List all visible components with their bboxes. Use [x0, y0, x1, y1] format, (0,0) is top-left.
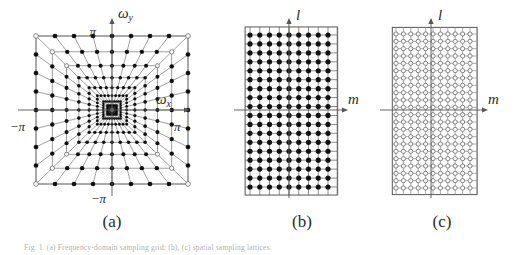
panel-c-point: [424, 105, 428, 109]
panel-a-y-axis-arrow: [109, 18, 114, 24]
panel-c-point: [453, 127, 457, 131]
panel-a-point: [144, 152, 148, 156]
panel-b-point: [316, 184, 321, 189]
panel-c-point: [453, 142, 457, 146]
panel-b-point: [267, 158, 272, 163]
panel-c-point: [461, 54, 465, 58]
panel-c-point: [438, 47, 442, 51]
panel-a-point: [100, 94, 103, 97]
panel-b-point: [306, 59, 311, 64]
panel-c-point: [453, 83, 457, 87]
panel-c-point: [446, 105, 450, 109]
panel-c-point: [401, 171, 405, 175]
panel-c-point: [394, 32, 398, 36]
panel-b-caption: (b): [272, 212, 332, 232]
panel-a-point: [65, 119, 69, 123]
panel-c-point: [461, 61, 465, 65]
panel-a-point: [100, 123, 103, 126]
panel-b-point: [306, 68, 311, 73]
panel-a-point: [87, 64, 91, 68]
panel-b-point: [257, 95, 262, 100]
panel-b-point: [325, 104, 330, 109]
panel-c-point: [468, 142, 472, 146]
panel-a-point: [103, 94, 106, 97]
panel-c-point: [438, 171, 442, 175]
panel-c-border: [392, 27, 477, 194]
panel-c-point: [438, 157, 442, 161]
panel-c-point: [446, 76, 450, 80]
panel-c-point: [394, 127, 398, 131]
panel-c-m-axis-arrow: [482, 107, 488, 112]
panel-b-point: [316, 140, 321, 145]
panel-c-point: [438, 32, 442, 36]
panel-b-point: [306, 184, 311, 189]
panel-b-point: [247, 68, 252, 73]
panel-a-point: [119, 117, 121, 119]
panel-b-point: [267, 104, 272, 109]
panel-c-point: [401, 83, 405, 87]
panel-c-point: [461, 142, 465, 146]
panel-c-point: [431, 142, 435, 146]
panel-b-point: [247, 59, 252, 64]
panel-b-point: [296, 149, 301, 154]
panel-b-point: [257, 77, 262, 82]
panel-a-point: [125, 94, 128, 97]
panel-b-point: [296, 140, 301, 145]
panel-a-point: [87, 125, 90, 128]
panel-b-point: [325, 113, 330, 118]
panel-c-point: [438, 127, 442, 131]
panel-c-point: [424, 120, 428, 124]
panel-c-point: [409, 127, 413, 131]
panel-c-point: [446, 98, 450, 102]
panel-b-point: [325, 167, 330, 172]
panel-b-point: [316, 131, 321, 136]
panel-c-point: [401, 135, 405, 139]
panel-c-point: [394, 120, 398, 124]
panel-c-point: [416, 157, 420, 161]
panel-c-point: [431, 157, 435, 161]
panel-b-point: [257, 86, 262, 91]
panel-c-point: [468, 164, 472, 168]
panel-a-point: [116, 131, 119, 134]
panel-b-point: [325, 122, 330, 127]
panel-b-point: [257, 131, 262, 136]
panel-b-point: [267, 77, 272, 82]
panel-b-point: [325, 86, 330, 91]
panel-c-point: [394, 76, 398, 80]
panel-a-point: [77, 92, 81, 96]
panel-b-point: [267, 122, 272, 127]
panel-a-point: [77, 100, 81, 104]
panel-c-point: [468, 113, 472, 117]
panel-a-point: [34, 182, 39, 187]
panel-c-point: [431, 186, 435, 190]
panel-c-point: [416, 98, 420, 102]
panel-a-point: [125, 105, 128, 108]
panel-c-point: [424, 179, 428, 183]
panel-c-point: [468, 39, 472, 43]
panel-c-point: [446, 39, 450, 43]
panel-c-point: [401, 91, 405, 95]
panel-c-point: [401, 32, 405, 36]
panel-a-point: [140, 50, 144, 54]
panel-b-point: [316, 32, 321, 37]
panel-b-point: [277, 149, 282, 154]
panel-c-point: [416, 91, 420, 95]
panel-c-point: [401, 157, 405, 161]
panel-b-point: [306, 131, 311, 136]
panel-c-point: [461, 69, 465, 73]
panel-b-point: [247, 131, 252, 136]
panel-a-point: [186, 126, 191, 131]
panel-b-point: [316, 68, 321, 73]
panel-a-point: [143, 124, 147, 128]
panel-a-point: [119, 115, 121, 117]
panel-c-point: [431, 47, 435, 51]
panel-a-point: [170, 79, 174, 83]
panel-a-point: [104, 100, 106, 102]
panel-c-point: [394, 61, 398, 65]
panel-a-point: [170, 137, 174, 141]
panel-b-point: [316, 167, 321, 172]
panel-c-point: [394, 113, 398, 117]
panel-b-point: [247, 149, 252, 154]
panel-c-point: [461, 186, 465, 190]
panel-c-point: [468, 91, 472, 95]
